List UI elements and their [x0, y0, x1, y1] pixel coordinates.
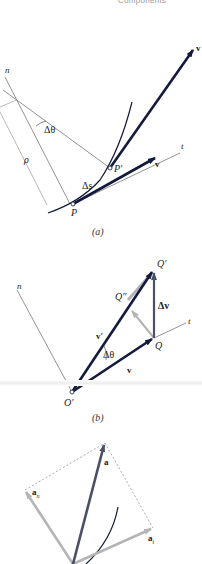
vector-v-prime-b	[72, 272, 152, 392]
label-q-prime: Q′	[157, 258, 166, 269]
label-v-b: v	[127, 365, 132, 375]
tangent-line-t-b	[154, 323, 186, 338]
normal-acceleration-vector	[26, 492, 73, 564]
label-a-n: an	[32, 487, 40, 499]
label-q: Q	[155, 340, 162, 351]
acceleration-vector-a	[73, 445, 104, 564]
label-delta-theta-b: Δθ	[103, 349, 114, 360]
caption-b: (b)	[92, 412, 104, 423]
label-p-prime: P′	[114, 163, 122, 174]
label-p: P	[71, 207, 77, 218]
label-rho: ρ	[24, 154, 29, 165]
radius-line-p-prime	[3, 90, 110, 168]
label-a: a	[104, 457, 109, 467]
label-q-double-prime: Q″	[115, 291, 126, 302]
label-v-prime-a: v	[196, 43, 201, 53]
tangential-acceleration-vector	[73, 529, 151, 564]
figure-a	[0, 50, 193, 213]
label-delta-s: Δs	[82, 180, 92, 191]
figure-c	[25, 443, 153, 564]
point-o-prime	[70, 390, 74, 394]
label-delta-theta-a: Δθ	[44, 124, 55, 135]
label-n-a: n	[5, 65, 10, 75]
normal-change-vector	[132, 311, 154, 338]
normal-line-n-b	[17, 290, 72, 392]
dashed-side-right	[105, 443, 153, 528]
kinematics-diagram	[0, 0, 202, 564]
point-p	[71, 202, 75, 206]
label-delta-v: Δv	[158, 300, 169, 311]
label-n-b: n	[17, 281, 22, 291]
label-v-a: v	[155, 159, 160, 169]
label-v-prime-b: v′	[96, 331, 103, 341]
path-curve	[48, 102, 132, 213]
point-p-prime	[108, 166, 112, 170]
label-t-a: t	[181, 141, 184, 151]
page-separator	[0, 380, 202, 386]
label-t-b: t	[188, 316, 191, 326]
label-a-t: at	[148, 533, 154, 545]
label-o-prime: O′	[64, 397, 73, 408]
caption-a: (a)	[92, 226, 104, 237]
